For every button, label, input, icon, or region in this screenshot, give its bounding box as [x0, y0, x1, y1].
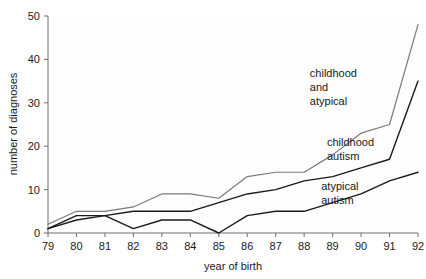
- x-axis-title: year of birth: [204, 260, 262, 272]
- childhood-and-atypical-label: atypical: [310, 95, 347, 107]
- childhood-and-atypical-label: childhood: [310, 67, 357, 79]
- chart-svg: 01020304050 7980818283848586878889909192…: [0, 0, 426, 279]
- atypical-autism-label: atypical: [321, 180, 358, 192]
- childhood-and-atypical-label: and: [310, 81, 328, 93]
- x-tick-group: 7980818283848586878889909192: [42, 233, 424, 252]
- y-tick-label: 0: [34, 227, 40, 239]
- x-tick-label: 88: [298, 240, 310, 252]
- y-tick-label: 40: [28, 53, 40, 65]
- x-tick-label: 87: [270, 240, 282, 252]
- y-tick-label: 50: [28, 10, 40, 22]
- x-tick-label: 84: [184, 240, 196, 252]
- y-axis: 01020304050: [28, 10, 48, 239]
- childhood-autism-label: autism: [327, 150, 359, 162]
- plot-background: [48, 16, 418, 233]
- x-tick-label: 82: [127, 240, 139, 252]
- x-tick-label: 89: [326, 240, 338, 252]
- x-tick-label: 86: [241, 240, 253, 252]
- x-tick-label: 81: [99, 240, 111, 252]
- x-tick-label: 85: [213, 240, 225, 252]
- line-chart: 01020304050 7980818283848586878889909192…: [0, 0, 426, 279]
- atypical-autism-label: autism: [321, 194, 353, 206]
- x-tick-label: 90: [355, 240, 367, 252]
- y-tick-label: 10: [28, 184, 40, 196]
- y-axis-title: number of diagnoses: [7, 72, 19, 175]
- y-tick-label: 30: [28, 97, 40, 109]
- childhood-autism-label: childhood: [327, 136, 374, 148]
- x-axis: 7980818283848586878889909192: [42, 233, 424, 252]
- x-tick-label: 91: [383, 240, 395, 252]
- y-tick-group: 01020304050: [28, 10, 48, 239]
- x-tick-label: 83: [156, 240, 168, 252]
- x-tick-label: 92: [412, 240, 424, 252]
- x-tick-label: 79: [42, 240, 54, 252]
- y-tick-label: 20: [28, 140, 40, 152]
- x-tick-label: 80: [70, 240, 82, 252]
